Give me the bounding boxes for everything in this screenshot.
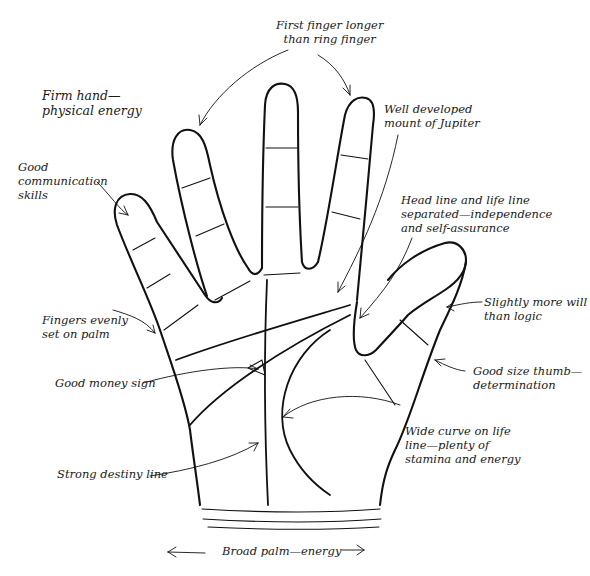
label-head-life-separated: Head line and life line separated—indepe… [401, 193, 552, 235]
palm-lines [176, 280, 381, 529]
label-life-line-curve: Wide curve on life line—plenty of stamin… [405, 424, 521, 466]
hand-diagram [0, 0, 590, 576]
label-thumb-size: Good size thumb— determination [473, 364, 582, 392]
label-first-finger: First finger longer than ring finger [276, 18, 383, 46]
label-fingers-evenly-set: Fingers evenly set on palm [42, 313, 128, 341]
label-firm-hand: Firm hand— physical energy [42, 88, 142, 118]
label-money-sign: Good money sign [55, 376, 156, 390]
label-mount-of-jupiter: Well developed mount of Jupiter [384, 102, 480, 130]
label-will-vs-logic: Slightly more will than logic [484, 295, 587, 323]
label-communication: Good communication skills [18, 160, 108, 202]
label-broad-palm: Broad palm—energy [222, 544, 341, 558]
label-destiny-line: Strong destiny line [57, 467, 168, 481]
